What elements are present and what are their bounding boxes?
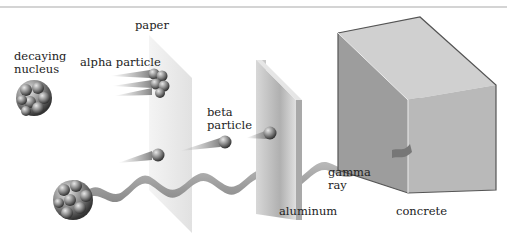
label-decaying-nucleus: decaying nucleus — [14, 50, 66, 76]
label-ray: ray — [328, 179, 371, 192]
radiation-penetration-diagram — [0, 0, 507, 233]
label-concrete: concrete — [396, 205, 447, 218]
label-gamma-ray: gamma ray — [328, 166, 371, 192]
label-nucleus: nucleus — [14, 63, 66, 76]
label-paper: paper — [135, 19, 169, 32]
label-aluminum: aluminum — [279, 205, 337, 218]
decaying-nucleus-bottom — [53, 180, 93, 220]
decaying-nucleus-top — [16, 80, 52, 116]
alpha-particle — [110, 69, 170, 99]
label-particle: particle — [207, 119, 252, 132]
beta-particle-1 — [118, 149, 165, 164]
label-beta-particle: beta particle — [207, 106, 252, 132]
aluminum-plate — [256, 60, 305, 220]
label-alpha-particle: alpha particle — [80, 56, 161, 69]
